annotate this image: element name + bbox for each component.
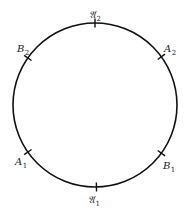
tick-mark-A1 xyxy=(24,149,31,154)
main-circle xyxy=(13,23,177,187)
tick-marks xyxy=(24,19,165,192)
point-label-B1: B1 xyxy=(162,160,175,174)
tick-mark-A2 xyxy=(158,54,165,59)
point-label-A1: A1 xyxy=(14,156,27,170)
circle-diagram: 𝔄2A2B2A1B1𝔄1 xyxy=(0,0,187,215)
point-labels: 𝔄2A2B2A1B1𝔄1 xyxy=(14,9,176,208)
point-label-frak-A1: 𝔄1 xyxy=(88,194,100,208)
point-label-B2: B2 xyxy=(16,43,29,57)
tick-mark-B1 xyxy=(158,151,165,156)
